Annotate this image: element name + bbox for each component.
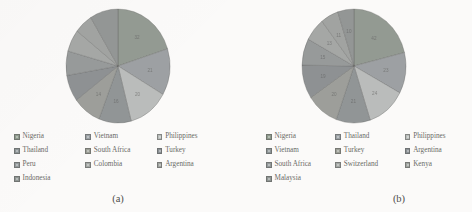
- legend-swatch-icon: [14, 176, 20, 182]
- legend-swatch-icon: [14, 162, 20, 168]
- legend-label: Peru: [23, 161, 36, 168]
- legend-swatch-icon: [266, 162, 272, 168]
- pie-slice-value-label: 24: [372, 91, 377, 96]
- legend-label: Turkey: [165, 147, 186, 154]
- pie-slice-value-label: 11: [336, 32, 341, 37]
- legend-label: Vietnam: [94, 133, 118, 140]
- caption-b: (b): [236, 193, 472, 204]
- legend-label: Turkey: [344, 147, 365, 154]
- legend-item[interactable]: Philippines: [405, 130, 472, 144]
- legend-label: South Africa: [94, 147, 131, 154]
- pie-chart-b: 42232421201915131110: [301, 8, 407, 124]
- legend-item[interactable]: Vietnam: [266, 144, 333, 158]
- legend-swatch-icon: [85, 148, 91, 154]
- legend-swatch-icon: [14, 134, 20, 140]
- pie-svg: [65, 8, 171, 124]
- legend-label: Kenya: [413, 161, 432, 168]
- pie-slice-value-label: 42: [371, 36, 376, 41]
- pie-chart-a-container: 3221201614: [0, 8, 236, 124]
- caption-a: (a): [0, 193, 236, 204]
- legend-swatch-icon: [405, 162, 411, 168]
- pie-slice-value-label: 15: [320, 55, 325, 60]
- legend-swatch-icon: [157, 162, 163, 168]
- legend-swatch-icon: [266, 134, 272, 140]
- legend-swatch-icon: [157, 134, 163, 140]
- legend-label: Argentina: [165, 161, 194, 168]
- pie-slice-value-label: 20: [135, 92, 140, 97]
- legend-a: NigeriaVietnamPhilippinesThailandSouth A…: [14, 130, 226, 186]
- legend-item[interactable]: Vietnam: [85, 130, 154, 144]
- legend-swatch-icon: [405, 134, 411, 140]
- legend-swatch-icon: [405, 148, 411, 154]
- pie-slice-value-label: 13: [327, 41, 332, 46]
- pie-slice-value-label: 21: [147, 67, 152, 72]
- legend-swatch-icon: [335, 148, 341, 154]
- legend-label: South Africa: [275, 161, 312, 168]
- legend-label: Thailand: [23, 147, 49, 154]
- legend-label: Colombia: [94, 161, 122, 168]
- legend-swatch-icon: [335, 134, 341, 140]
- legend-item[interactable]: Argentina: [405, 144, 472, 158]
- panel-b: 42232421201915131110 NigeriaThailandPhil…: [236, 0, 472, 212]
- legend-item[interactable]: Nigeria: [266, 130, 333, 144]
- pie-slice-value-label: 10: [346, 29, 351, 34]
- legend-swatch-icon: [266, 176, 272, 182]
- legend-item[interactable]: Malaysia: [266, 172, 333, 186]
- pie-slice-value-label: 14: [96, 92, 101, 97]
- pie-slice-value-label: 16: [113, 99, 118, 104]
- legend-swatch-icon: [157, 148, 163, 154]
- legend-label: Switzerland: [344, 161, 378, 168]
- figure-sheet: 3221201614 NigeriaVietnamPhilippinesThai…: [0, 0, 472, 212]
- legend-b: NigeriaThailandPhilippinesVietnamTurkeyA…: [266, 130, 472, 186]
- legend-item[interactable]: South Africa: [266, 158, 333, 172]
- legend-label: Nigeria: [275, 133, 297, 140]
- legend-item[interactable]: Turkey: [157, 144, 226, 158]
- legend-label: Vietnam: [275, 147, 299, 154]
- pie-slice-value-label: 32: [134, 35, 139, 40]
- legend-swatch-icon: [266, 148, 272, 154]
- legend-label: Argentina: [413, 147, 442, 154]
- legend-item[interactable]: Turkey: [335, 144, 402, 158]
- pie-slice-value-label: 23: [383, 68, 388, 73]
- legend-label: Thailand: [344, 133, 370, 140]
- legend-swatch-icon: [85, 162, 91, 168]
- pie-chart-b-container: 42232421201915131110: [236, 8, 472, 124]
- panel-a: 3221201614 NigeriaVietnamPhilippinesThai…: [0, 0, 236, 212]
- legend-swatch-icon: [335, 162, 341, 168]
- legend-item[interactable]: Thailand: [14, 144, 83, 158]
- legend-item[interactable]: Switzerland: [335, 158, 402, 172]
- pie-slice-value-label: 20: [331, 91, 336, 96]
- legend-item[interactable]: Indonesia: [14, 172, 83, 186]
- pie-chart-a: 3221201614: [65, 8, 171, 124]
- legend-label: Philippines: [413, 133, 445, 140]
- legend-item[interactable]: South Africa: [85, 144, 154, 158]
- legend-item[interactable]: Kenya: [405, 158, 472, 172]
- legend-label: Malaysia: [275, 175, 301, 182]
- legend-item[interactable]: Nigeria: [14, 130, 83, 144]
- legend-swatch-icon: [85, 134, 91, 140]
- legend-label: Nigeria: [23, 133, 45, 140]
- pie-slice-value-label: 19: [320, 73, 325, 78]
- legend-item[interactable]: Colombia: [85, 158, 154, 172]
- legend-label: Philippines: [165, 133, 197, 140]
- legend-swatch-icon: [14, 148, 20, 154]
- legend-item[interactable]: Philippines: [157, 130, 226, 144]
- legend-label: Indonesia: [23, 175, 51, 182]
- legend-item[interactable]: Thailand: [335, 130, 402, 144]
- legend-item[interactable]: Argentina: [157, 158, 226, 172]
- pie-svg: [301, 8, 407, 124]
- legend-item[interactable]: Peru: [14, 158, 83, 172]
- pie-slice-value-label: 21: [351, 99, 356, 104]
